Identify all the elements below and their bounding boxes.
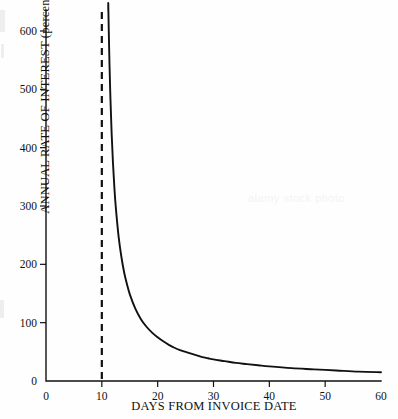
- axes-group: [46, 10, 381, 381]
- y-tick-label: 200: [2, 258, 37, 270]
- data-curve: [108, 3, 381, 372]
- y-tick-label: 300: [2, 200, 37, 212]
- y-tick-label: 100: [2, 317, 37, 329]
- series-group: [108, 3, 381, 372]
- y-tick-label: 400: [2, 142, 37, 154]
- y-axis-title: ANNUAL RATE OF INTEREST (percent): [38, 0, 53, 243]
- y-tick-label: 500: [2, 83, 37, 95]
- y-tick-label: 0: [2, 375, 37, 387]
- chart-figure: alamy stock photo 0100200300400500600010…: [0, 0, 398, 419]
- y-tick-label: 600: [2, 25, 37, 37]
- plot-canvas: [0, 0, 398, 419]
- x-axis-title: DAYS FROM INVOICE DATE: [46, 399, 382, 414]
- ticks-group: [40, 31, 325, 387]
- axis-spines: [46, 10, 381, 381]
